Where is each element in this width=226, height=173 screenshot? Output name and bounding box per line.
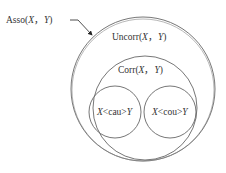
corr-label: Corr(X，Y) xyxy=(118,65,163,76)
asso-pointer-arrow xyxy=(70,20,92,35)
cau-label: X<cau>Y xyxy=(96,107,134,117)
asso-label: Asso(X，Y) xyxy=(6,15,52,26)
venn-diagram: Asso(X，Y) Uncorr(X，Y) Corr(X，Y) X<cau>Y … xyxy=(0,0,226,173)
uncorr-label: Uncorr(X，Y) xyxy=(112,32,166,43)
cou-label: X<cou>Y xyxy=(151,107,189,117)
